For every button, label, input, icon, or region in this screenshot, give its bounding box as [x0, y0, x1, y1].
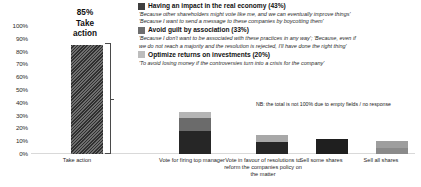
bar-take-action	[71, 45, 103, 154]
legend-quote-returns-1: 'To avoid losing money if the controvers…	[139, 60, 420, 67]
x-label-take-action: Take action	[47, 157, 107, 164]
bar-value-annotation: 85% Take action	[55, 8, 115, 40]
bar-vote-firing	[179, 112, 211, 154]
legend-header-returns: Optimize returns on investments (20%)	[138, 51, 420, 59]
footnote-note: NB: the total is not 100% due to empty f…	[256, 101, 391, 108]
legend-swatch-icon-impact	[138, 3, 145, 10]
legend-header-guilt: Avoid guilt by association (33%)	[138, 26, 420, 34]
bar-segment-guilt	[179, 118, 211, 131]
y-axis: 100% 90% 80% 70% 60% 50% 40% 30% 20% 10%…	[0, 26, 30, 154]
bar-segment-impact	[179, 131, 211, 154]
bar-segment-returns	[256, 135, 288, 143]
y-tick-40: 40%	[16, 100, 28, 106]
bar-segment-guilt	[376, 148, 408, 154]
legend-quote-impact-1: 'Because other shareholders might vote l…	[139, 11, 420, 18]
bar-sell-some-shares	[316, 139, 348, 154]
legend-swatch-icon-guilt	[138, 27, 145, 34]
legend: Having an impact in the real economy (43…	[138, 2, 420, 68]
y-tick-0: 0%	[19, 151, 28, 157]
x-label-sell-some: Sell some shares	[290, 157, 352, 164]
y-tick-20: 20%	[16, 125, 28, 131]
y-tick-50: 50%	[16, 87, 28, 93]
y-tick-100: 100%	[13, 23, 28, 29]
x-label-sell-all: Sell all shares	[350, 157, 412, 164]
bracket-nub	[110, 99, 114, 100]
legend-title-impact: Having an impact in the real economy (43…	[148, 2, 286, 10]
bar-sell-all-shares	[376, 141, 408, 154]
bar-segment-hatched	[71, 45, 103, 154]
y-tick-90: 90%	[16, 36, 28, 42]
legend-title-returns: Optimize returns on investments (20%)	[148, 51, 270, 59]
legend-item-impact[interactable]: Having an impact in the real economy (43…	[138, 2, 420, 25]
annotation-line-3: action	[55, 29, 115, 40]
legend-quote-guilt-2: we do not reach a majority and the resol…	[139, 43, 420, 50]
chart-figure: 100% 90% 80% 70% 60% 50% 40% 30% 20% 10%…	[0, 0, 421, 187]
legend-title-guilt: Avoid guilt by association (33%)	[148, 26, 249, 34]
annotation-line-2: Take	[55, 19, 115, 30]
bracket-take-action	[105, 43, 111, 154]
legend-quote-guilt-1: 'Because I don't want to be associated w…	[139, 35, 420, 42]
bar-segment-impact	[316, 139, 348, 154]
legend-item-returns[interactable]: Optimize returns on investments (20%) 'T…	[138, 51, 420, 67]
annotation-percent: 85%	[55, 8, 115, 19]
legend-header-impact: Having an impact in the real economy (43…	[138, 2, 420, 10]
y-tick-30: 30%	[16, 113, 28, 119]
y-tick-70: 70%	[16, 61, 28, 67]
bar-segment-impact	[256, 142, 288, 154]
legend-swatch-icon-returns	[138, 51, 145, 58]
legend-item-guilt[interactable]: Avoid guilt by association (33%) 'Becaus…	[138, 26, 420, 49]
legend-quote-impact-2: 'Because I want to send a message to the…	[139, 18, 420, 25]
y-tick-60: 60%	[16, 74, 28, 80]
y-tick-10: 10%	[16, 138, 28, 144]
y-tick-80: 80%	[16, 49, 28, 55]
bar-vote-resolutions	[256, 135, 288, 154]
